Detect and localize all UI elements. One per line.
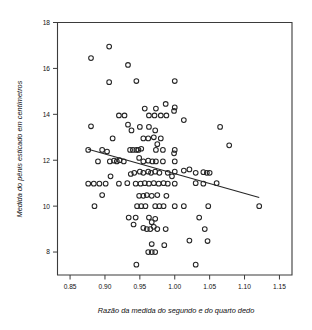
x-tick-label: 1.05	[203, 283, 216, 290]
x-tick-label: 0.90	[99, 283, 112, 290]
x-tick-label: 0.95	[133, 283, 146, 290]
y-tick-label: 18	[43, 19, 51, 26]
x-axis-title: Razão da medida do segundo e do quarto d…	[98, 306, 255, 315]
x-tick-label: 1.00	[168, 283, 181, 290]
plot-canvas: 0.850.900.951.001.051.101.15 81012141618…	[0, 0, 312, 330]
figure-background	[0, 0, 312, 330]
y-tick-label: 16	[43, 65, 51, 72]
y-tick-label: 14	[43, 111, 51, 118]
y-tick-label: 8	[46, 248, 50, 255]
scatter-plot-figure: 0.850.900.951.001.051.101.15 81012141618…	[0, 0, 312, 330]
x-tick-label: 0.85	[64, 283, 77, 290]
y-tick-label: 10	[43, 203, 51, 210]
y-axis-title: Medida do pênis esticado em centímetros	[15, 80, 24, 217]
x-tick-label: 1.10	[238, 283, 251, 290]
y-tick-label: 12	[43, 157, 51, 164]
x-tick-label: 1.15	[273, 283, 286, 290]
